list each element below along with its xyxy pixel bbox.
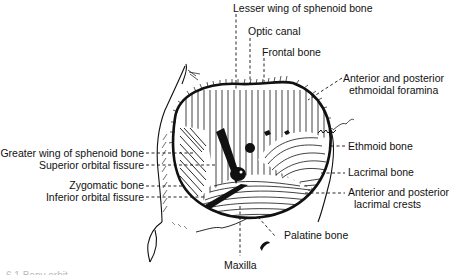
label-greater-wing-sphenoid: Greater wing of sphenoid bone	[0, 148, 144, 159]
label-frontal-bone: Frontal bone	[262, 47, 321, 58]
orbit-diagram: Lesser wing of sphenoid bone Optic canal…	[0, 0, 449, 275]
label-ethmoidal-foramina-line2: ethmoidal foramina	[349, 85, 438, 96]
label-lacrimal-crests-line2: lacrimal crests	[354, 199, 421, 210]
label-lesser-wing-sphenoid: Lesser wing of sphenoid bone	[233, 3, 373, 14]
figure-caption-fragment: 6.1 Bony orbit	[6, 270, 68, 275]
label-zygomatic-bone: Zygomatic bone	[69, 180, 144, 191]
orbit-illustration	[0, 0, 449, 275]
label-lacrimal-bone: Lacrimal bone	[348, 167, 414, 178]
label-palatine-bone: Palatine bone	[284, 230, 348, 241]
label-maxilla: Maxilla	[224, 260, 257, 271]
label-optic-canal: Optic canal	[248, 26, 301, 37]
label-inferior-orbital-fissure: Inferior orbital fissure	[46, 192, 144, 203]
label-ethmoid-bone: Ethmoid bone	[348, 141, 413, 152]
label-lacrimal-crests-line1: Anterior and posterior	[348, 187, 449, 198]
infraorbital-foramen	[260, 242, 270, 251]
label-ethmoidal-foramina-line1: Anterior and posterior	[343, 73, 444, 84]
orbit-hatching	[170, 80, 335, 225]
label-superior-orbital-fissure: Superior orbital fissure	[39, 160, 144, 171]
